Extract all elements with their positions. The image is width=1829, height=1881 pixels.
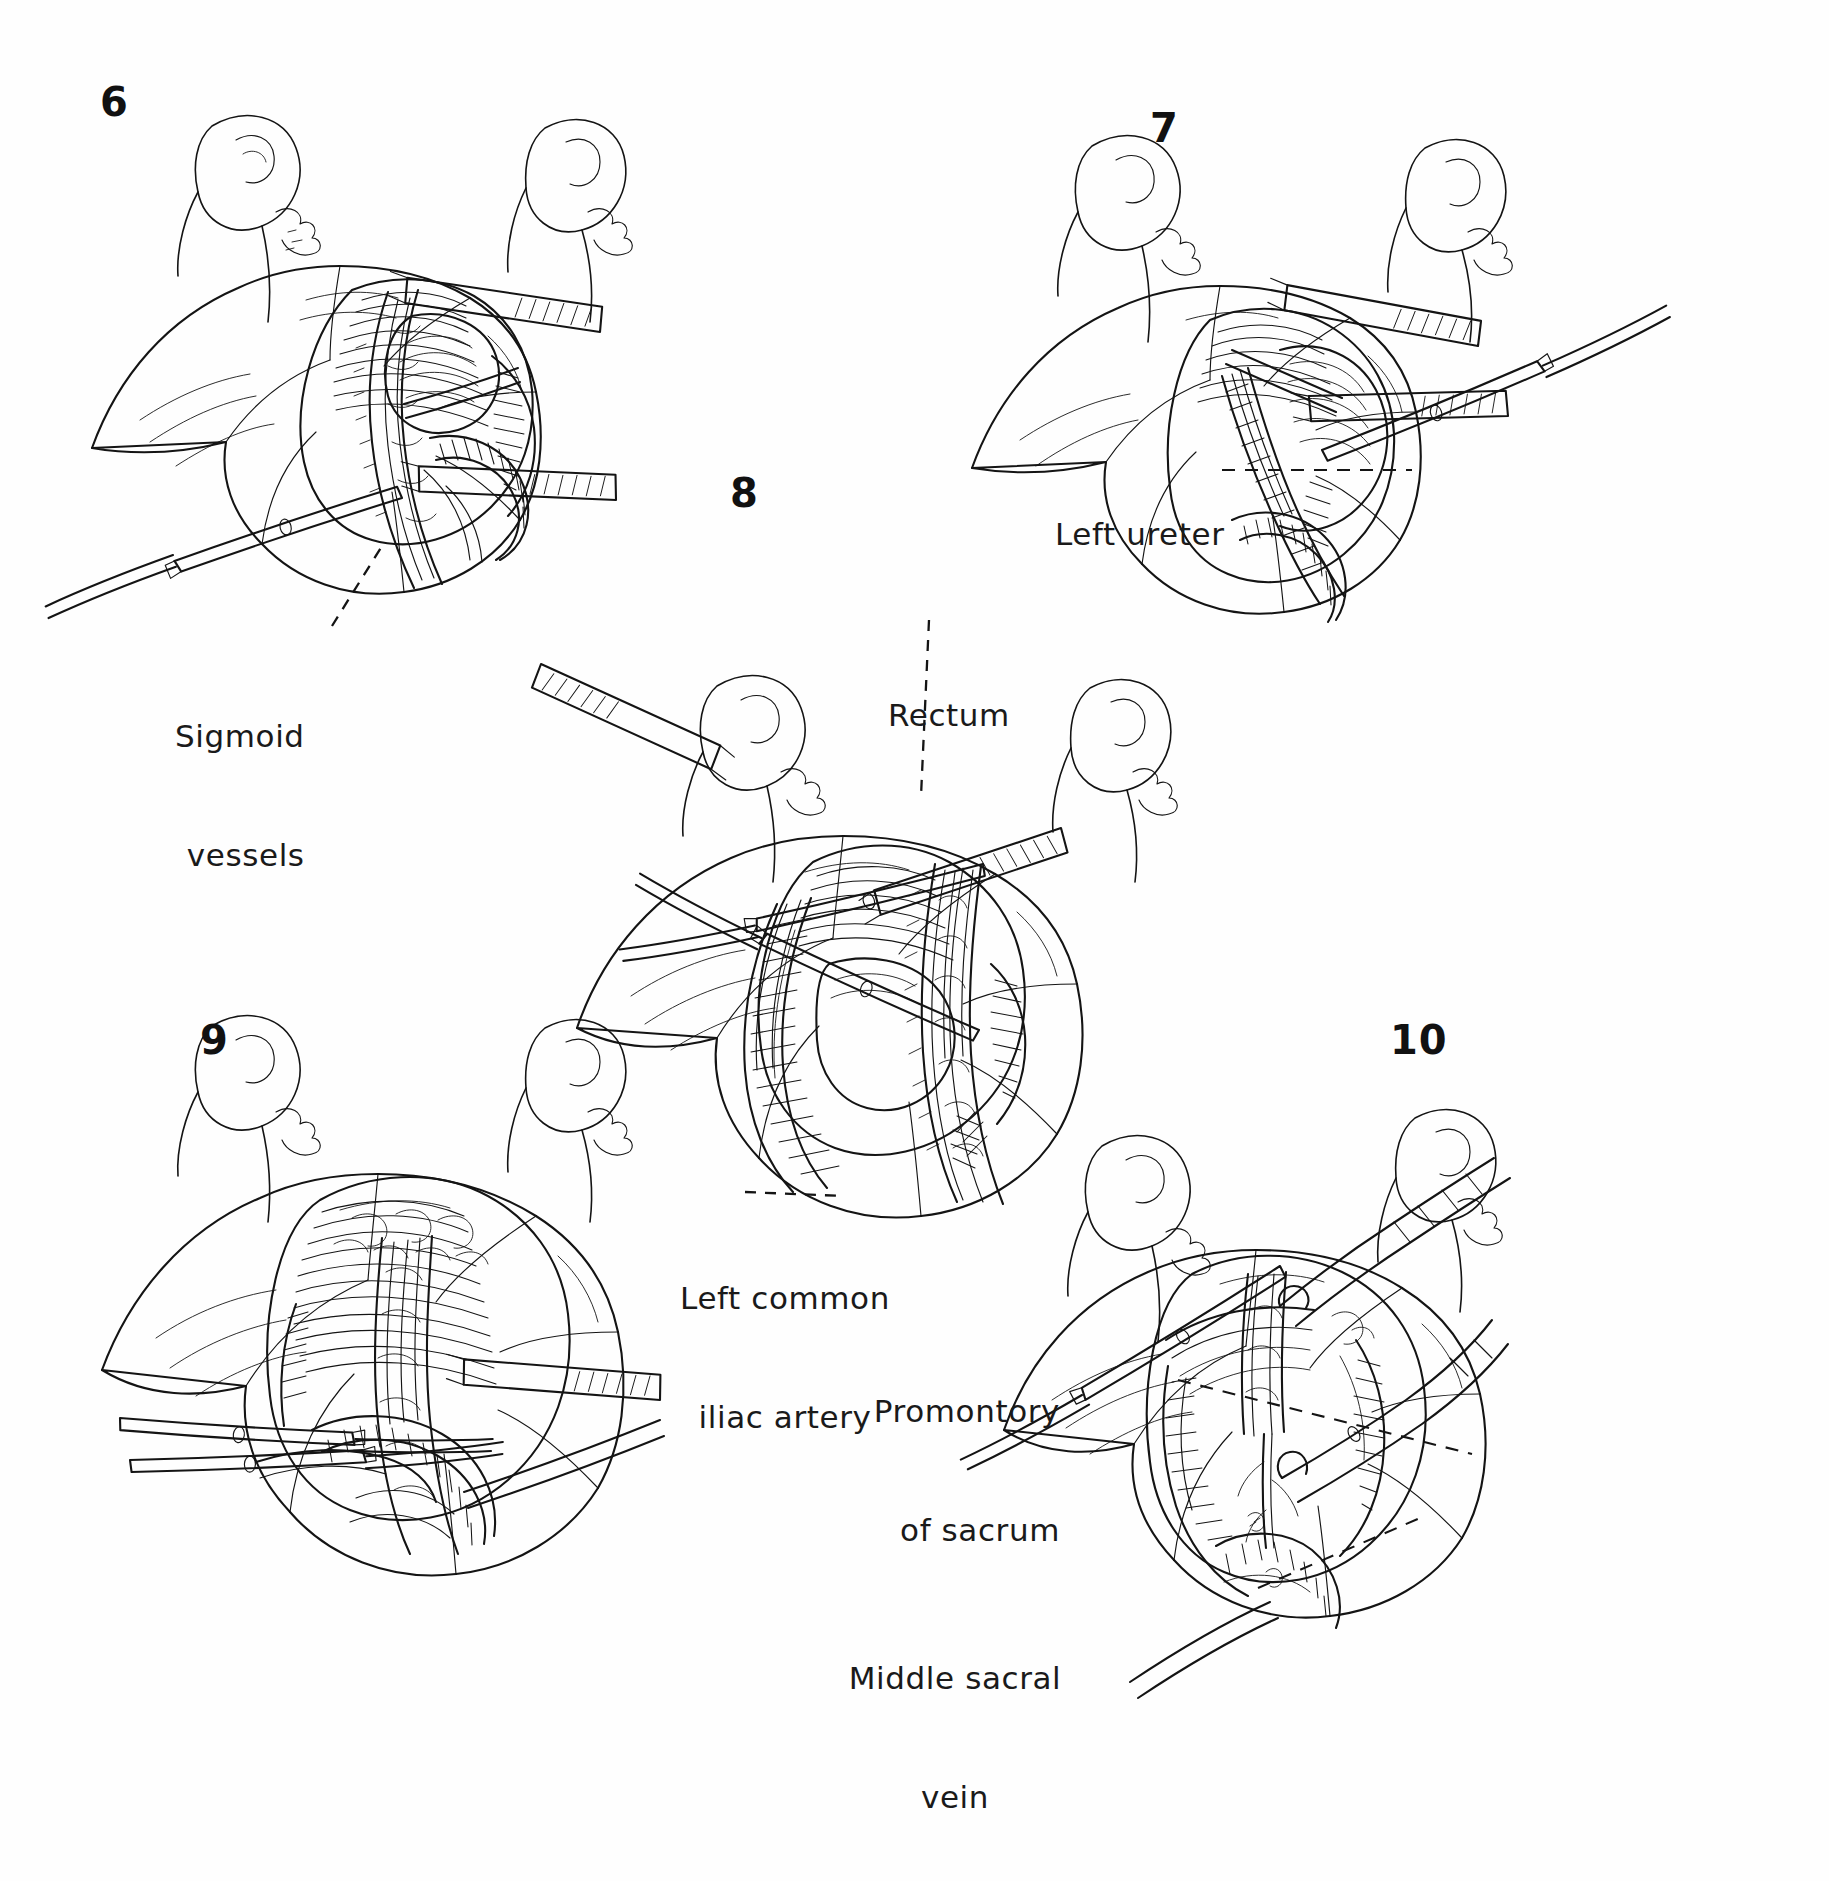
panel10-operative-field [1147, 1256, 1426, 1628]
hemostat-forceps [1312, 306, 1679, 462]
hemostat-forceps [130, 1429, 503, 1485]
leader-sigmoid-vessels [332, 546, 382, 626]
panel6-right-wall-muscle [492, 356, 535, 516]
panel10-lower-bundle [1216, 1534, 1340, 1628]
panel9-lower-bowel [312, 1416, 495, 1545]
panel6-instruments [38, 255, 619, 618]
panel9-field-hatching [294, 1201, 496, 1384]
panel6-bowel-loop [424, 436, 528, 562]
panel7-bowel-loop [1232, 513, 1346, 622]
label-rectum: Rectum [888, 617, 1010, 815]
panel10-body-landmarks [1068, 1110, 1503, 1342]
panel9-mesenteric-fat [334, 1210, 488, 1264]
panel8-window [816, 958, 954, 1110]
figure-number-9: 9 [200, 1020, 229, 1060]
panel8-right-iliac-wedge [951, 964, 1025, 1168]
panel9-instruments [118, 1338, 664, 1508]
retractor-blade [442, 1338, 664, 1419]
label-left-ureter-line1: Left ureter [1055, 515, 1225, 555]
panel8-rectum-column [905, 864, 1003, 1204]
panel10-right-mass [1332, 1312, 1384, 1556]
dissecting-scissors [1279, 1158, 1510, 1326]
panel6-abdominal-wall [92, 266, 541, 594]
panel10-promontory [1166, 1307, 1314, 1394]
panel6-serosa-hatching [334, 292, 488, 426]
panel7-body-landmarks [1058, 136, 1513, 342]
label-promontory-of-sacrum-line1: Promontory [810, 1392, 1060, 1432]
panel6-body-landmarks [178, 116, 633, 322]
panel9-operative-field [267, 1177, 569, 1554]
panel10-rectum-pedicle [1242, 1272, 1286, 1436]
panel9-left-wedge [281, 1304, 308, 1426]
retractor-blade [1263, 262, 1485, 364]
panel7-bowel-mass [1280, 346, 1387, 546]
retractor-blade [854, 811, 1071, 940]
figure-number-10: 10 [1390, 1020, 1448, 1060]
label-middle-sacral-vein-line1: Middle sacral [820, 1659, 1090, 1699]
panel-9-artwork [102, 1016, 664, 1576]
panel-8-artwork [529, 620, 1178, 1218]
panel7-left-ureter [1222, 368, 1344, 604]
figure-number-8: 8 [730, 473, 759, 513]
panel8-abdominal-wall [577, 836, 1083, 1218]
panel7-instruments [1226, 262, 1680, 462]
label-middle-sacral-vein-line2: vein [820, 1778, 1090, 1818]
panel8-operative-field [744, 846, 1025, 1205]
panel6-sigmoid-vessel-band [354, 290, 442, 588]
figure-number-7: 7 [1150, 108, 1179, 148]
panel9-abdominal-wall [102, 1174, 624, 1575]
hemostat-forceps [38, 486, 409, 618]
illustration-plate: .s{fill:none;stroke:#141414;stroke-linec… [0, 0, 1829, 1881]
panel9-rectal-pedicle [375, 1236, 458, 1554]
hemostat-forceps [625, 874, 989, 1042]
hemostat-forceps-lower [1278, 1320, 1508, 1502]
retractor-blade [529, 648, 740, 795]
retractor-blade [384, 255, 606, 350]
panel-6-artwork [38, 116, 632, 626]
leader-left-common-iliac [745, 1192, 843, 1196]
panel9-body-landmarks [178, 1016, 633, 1222]
panel8-left-common-iliac-artery [744, 898, 839, 1192]
panel10-left-mass [1163, 1366, 1248, 1596]
panel7-areolar-tissue [1198, 325, 1336, 416]
label-middle-sacral-vein: Middle sacral vein [820, 1580, 1090, 1881]
panel10-abdominal-wall [1004, 1250, 1486, 1618]
label-promontory-of-sacrum-line2: of sacrum [810, 1511, 1060, 1551]
retractor-blade [397, 445, 619, 519]
label-rectum-line1: Rectum [888, 696, 1010, 736]
retractor-blade [1289, 376, 1510, 435]
panel6-operative-field [301, 279, 535, 588]
hemostat-forceps [620, 835, 987, 991]
panel8-upper-shading [799, 867, 953, 960]
label-sigmoid-vessels-line1: Sigmoid [175, 717, 305, 757]
figure-number-6: 6 [100, 82, 129, 122]
label-left-ureter: Left ureter [1055, 436, 1225, 634]
label-sigmoid-vessels-line2: vessels [175, 836, 305, 876]
panel10-middle-sacral-vein [1238, 1434, 1298, 1548]
leader-middle-sacral-vein [1258, 1518, 1420, 1588]
leader-promontory [1178, 1380, 1472, 1454]
label-sigmoid-vessels: Sigmoid vessels [175, 638, 305, 955]
hemostat-forceps [118, 1387, 492, 1481]
